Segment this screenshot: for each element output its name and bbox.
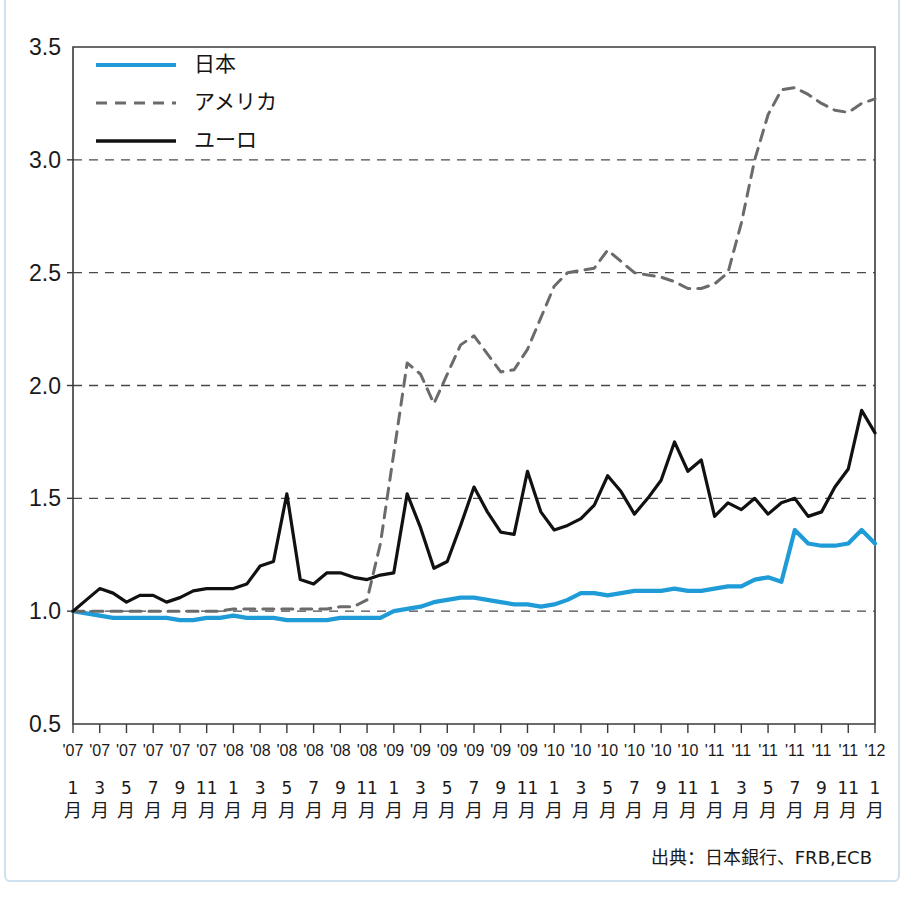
y-tick-label: 2.0 (29, 373, 61, 399)
x-month-number: 5 (763, 778, 774, 798)
x-month-kanji: 月 (64, 800, 82, 821)
y-tick-label: 0.5 (29, 711, 61, 737)
x-month-number: 3 (415, 778, 426, 798)
x-month-number: 3 (255, 778, 266, 798)
y-tick-labels-group: 3.53.02.52.01.51.00.5 (29, 34, 73, 737)
x-month-number: 9 (335, 778, 346, 798)
x-year-label: '09 (517, 742, 538, 759)
x-month-kanji: 月 (144, 800, 162, 821)
line-chart: 3.53.02.52.01.51.00.5 '071月'073月'075月'07… (0, 0, 910, 907)
x-year-label: '07 (63, 742, 84, 759)
x-month-kanji: 月 (679, 800, 697, 821)
x-tick-labels-group: '071月'073月'075月'077月'079月'0711月'081月'083… (63, 742, 886, 821)
x-month-kanji: 月 (599, 800, 617, 821)
x-month-kanji: 月 (331, 800, 349, 821)
x-month-number: 5 (602, 778, 613, 798)
data-series-group (73, 88, 875, 621)
y-tick-label: 2.5 (29, 260, 61, 286)
x-month-number: 11 (517, 778, 539, 798)
x-year-label: '11 (731, 742, 751, 759)
x-month-kanji: 月 (545, 800, 563, 821)
x-month-number: 1 (388, 778, 399, 798)
x-month-kanji: 月 (866, 800, 884, 821)
y-tick-label: 3.5 (29, 34, 61, 60)
x-year-label: '10 (624, 742, 645, 759)
x-month-kanji: 月 (171, 800, 189, 821)
x-year-label: '10 (571, 742, 592, 759)
x-year-label: '11 (758, 742, 778, 759)
x-year-label: '08 (330, 742, 351, 759)
x-month-number: 5 (442, 778, 453, 798)
x-year-label: '09 (437, 742, 458, 759)
x-month-number: 9 (175, 778, 186, 798)
x-month-kanji: 月 (839, 800, 857, 821)
x-month-kanji: 月 (412, 800, 430, 821)
gridlines-group (73, 160, 875, 611)
x-year-label: '09 (490, 742, 511, 759)
x-year-label: '07 (116, 742, 137, 759)
x-month-number: 11 (837, 778, 859, 798)
x-month-number: 7 (148, 778, 159, 798)
x-year-label: '11 (838, 742, 858, 759)
x-month-kanji: 月 (438, 800, 456, 821)
x-month-kanji: 月 (278, 800, 296, 821)
x-year-label: '08 (250, 742, 271, 759)
y-tick-label: 1.5 (29, 485, 61, 511)
x-month-kanji: 月 (813, 800, 831, 821)
x-month-number: 9 (816, 778, 827, 798)
x-month-kanji: 月 (198, 800, 216, 821)
chart-container: 3.53.02.52.01.51.00.5 '071月'073月'075月'07… (0, 0, 910, 907)
x-year-label: '09 (464, 742, 485, 759)
series-line-usa (73, 88, 875, 612)
x-month-kanji: 月 (91, 800, 109, 821)
x-month-number: 7 (789, 778, 800, 798)
x-year-label: '07 (170, 742, 191, 759)
x-month-number: 5 (121, 778, 132, 798)
x-year-label: '10 (597, 742, 618, 759)
x-month-kanji: 月 (492, 800, 510, 821)
x-year-label: '12 (865, 742, 886, 759)
x-month-number: 11 (356, 778, 378, 798)
x-month-kanji: 月 (465, 800, 483, 821)
x-month-kanji: 月 (251, 800, 269, 821)
x-month-kanji: 月 (305, 800, 323, 821)
x-year-label: '11 (785, 742, 805, 759)
x-month-number: 9 (656, 778, 667, 798)
x-month-kanji: 月 (732, 800, 750, 821)
legend-label-japan: 日本 (194, 52, 236, 76)
x-month-kanji: 月 (358, 800, 376, 821)
x-month-number: 3 (736, 778, 747, 798)
y-tick-label: 3.0 (29, 147, 61, 173)
x-month-kanji: 月 (572, 800, 590, 821)
x-month-number: 1 (68, 778, 79, 798)
x-year-label: '07 (89, 742, 110, 759)
x-month-kanji: 月 (224, 800, 242, 821)
x-year-label: '10 (677, 742, 698, 759)
x-year-label: '07 (196, 742, 217, 759)
x-month-number: 7 (308, 778, 319, 798)
x-month-number: 3 (576, 778, 587, 798)
x-month-number: 7 (629, 778, 640, 798)
legend-label-euro: ユーロ (194, 128, 257, 152)
x-ticks-group (73, 724, 875, 733)
x-month-number: 9 (495, 778, 506, 798)
legend-label-usa: アメリカ (194, 90, 277, 114)
chart-legend: 日本アメリカユーロ (96, 52, 277, 152)
x-year-label: '09 (410, 742, 431, 759)
x-year-label: '11 (705, 742, 725, 759)
x-month-number: 11 (196, 778, 218, 798)
x-month-kanji: 月 (385, 800, 403, 821)
x-month-kanji: 月 (117, 800, 135, 821)
x-month-kanji: 月 (518, 800, 536, 821)
x-month-number: 5 (281, 778, 292, 798)
x-month-kanji: 月 (625, 800, 643, 821)
x-month-kanji: 月 (706, 800, 724, 821)
x-month-kanji: 月 (759, 800, 777, 821)
x-month-number: 1 (709, 778, 720, 798)
x-month-number: 1 (228, 778, 239, 798)
x-year-label: '10 (544, 742, 565, 759)
x-year-label: '07 (143, 742, 164, 759)
x-month-number: 11 (677, 778, 699, 798)
x-month-number: 1 (549, 778, 560, 798)
x-month-kanji: 月 (786, 800, 804, 821)
